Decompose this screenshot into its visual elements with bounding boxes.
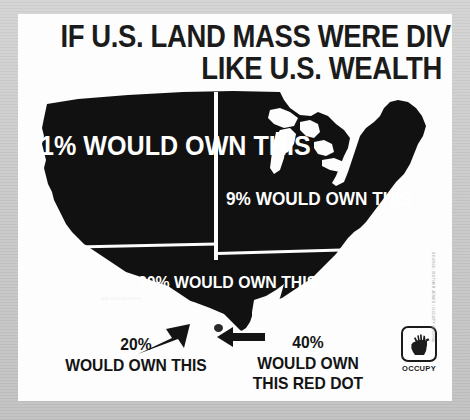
poster-card: IF U.S. LAND MASS WERE DIVIDED LIKE U.S.… (18, 14, 452, 401)
callout-twenty-percent-value: 20% (62, 336, 209, 354)
occupy-badge: OCCUPY (396, 326, 442, 373)
callout-forty-percent-text-2: THIS RED DOT (239, 375, 377, 393)
callout-twenty-percent: 20% WOULD OWN THIS (62, 336, 209, 374)
page-title: IF U.S. LAND MASS WERE DIVIDED LIKE U.S.… (18, 22, 452, 84)
label-one-percent-row-1: 1% WOULD (40, 131, 178, 161)
callout-forty-percent-text-1: WOULD OWN (239, 355, 377, 373)
callout-twenty-percent-text: WOULD OWN THIS (62, 357, 209, 375)
callout-forty-percent-value: 40% (239, 334, 377, 352)
poster-frame: IF U.S. LAND MASS WERE DIVIDED LIKE U.S.… (0, 0, 470, 420)
label-one-percent: 1% WOULD OWN THIS (40, 133, 209, 160)
headline-line-1: IF U.S. LAND MASS WERE DIVIDED (60, 22, 442, 52)
label-nine-percent: 9% WOULD OWN THIS (226, 190, 349, 209)
usa-map-silhouette (18, 86, 452, 336)
divider-vertical (214, 92, 218, 260)
callout-forty-percent: 40% WOULD OWN THIS RED DOT (239, 334, 377, 393)
side-credit: SOURCE: MOTHER JONES / OCCUPY GEORGE (431, 252, 435, 343)
usa-map-figure: 1% WOULD OWN THIS 9% WOULD OWN THIS 30% … (18, 86, 452, 336)
map-credit-small: DATA: G WILLIAM DOMHOFF (101, 298, 142, 301)
label-one-percent-row-2: OWN THIS (185, 131, 311, 161)
raised-fist-glyph (408, 332, 430, 356)
label-nine-percent-row-2: OWN THIS (325, 188, 411, 209)
label-nine-percent-row-1: 9% WOULD (226, 188, 321, 209)
headline-line-2: LIKE U.S. WEALTH (60, 54, 442, 84)
label-thirty-percent: 30% WOULD OWN THIS (138, 274, 317, 291)
occupy-label: OCCUPY (396, 364, 442, 373)
